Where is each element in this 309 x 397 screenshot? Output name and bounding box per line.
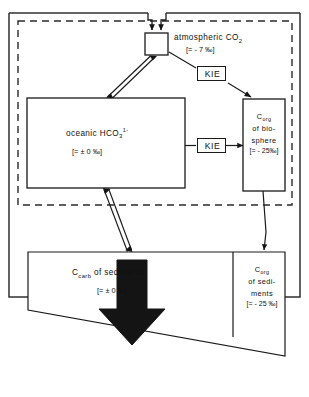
kie-label-atmosphere-biosphere: KIE [197, 66, 226, 81]
atmosphere-ocean-exchange-arrow [106, 56, 157, 99]
c-org-biosphere-box [243, 99, 285, 191]
diagram-vector-layer [0, 0, 309, 397]
oceanic-bicarbonate-box [27, 98, 185, 188]
atmospheric-co2-box [145, 33, 168, 55]
kie-text-2: KIE [198, 141, 227, 152]
kie-label-ocean-biosphere: KIE [197, 138, 226, 153]
ocean-sediment-exchange-arrow [103, 188, 132, 252]
sediment-trapezoid-body [28, 252, 285, 356]
biosphere-org-sediment-arrow [263, 191, 266, 250]
diagram-canvas: atmospheric CO2 [= - 7 ‰] oceanic HCO31-… [0, 0, 309, 397]
kie-text-1: KIE [198, 69, 227, 80]
